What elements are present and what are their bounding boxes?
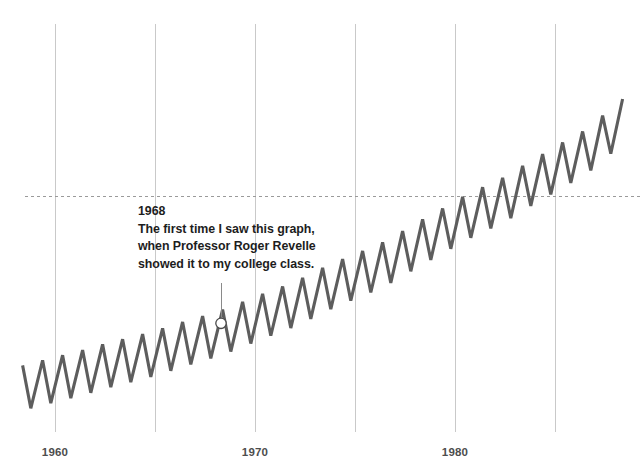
chart-container: 196019701980 1968 The first time I saw t… <box>0 0 642 468</box>
annotation-callout: 1968 The first time I saw this graph, wh… <box>138 203 353 273</box>
annotation-line-1: The first time I saw this graph, <box>138 221 353 239</box>
annotation-line-3: showed it to my college class. <box>138 256 353 274</box>
annotation-line-2: when Professor Roger Revelle <box>138 238 353 256</box>
x-tick-label-1970: 1970 <box>242 446 268 458</box>
x-tick-label-1960: 1960 <box>42 446 68 458</box>
annotation-year: 1968 <box>138 203 353 221</box>
x-axis-tick-labels: 196019701980 <box>42 446 468 458</box>
x-tick-label-1980: 1980 <box>442 446 468 458</box>
annotation-point-marker[interactable] <box>216 318 226 328</box>
